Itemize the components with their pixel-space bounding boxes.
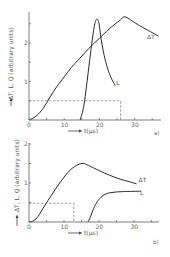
series-l — [80, 19, 115, 120]
series-label: L — [140, 189, 144, 196]
series-l — [88, 191, 141, 222]
x-tick-label: 10 — [61, 121, 69, 128]
x-tick-label: 30 — [131, 121, 139, 128]
x-tick-label: 30 — [131, 223, 139, 230]
y-tick-label: 1 — [24, 179, 28, 186]
axis-ticks: 10203012 — [24, 140, 152, 230]
series-label: L — [116, 79, 120, 86]
x-tick-label: 10 — [61, 223, 69, 230]
series-label: ΔT — [139, 176, 147, 183]
x-axis-label: t(µs) — [84, 229, 98, 237]
y-tick-label: 1 — [24, 78, 28, 85]
y-axis-label: ΔT, L, Q (arbitrary units) — [7, 27, 15, 100]
figure: 10203012 ΔTL 0 ΔT, L, Q (arbitrary units… — [0, 0, 170, 257]
origin-label: 0 — [27, 121, 31, 128]
panel-label: b) — [153, 239, 159, 245]
data-series: ΔTL — [29, 17, 159, 120]
panel-a-chart: 10203012 ΔTL 0 ΔT, L, Q (arbitrary units… — [7, 12, 161, 136]
origin-label: 0 — [27, 223, 31, 230]
panel-b-chart: 10203012 ΔTL 0 ΔT, L, Q (arbitrary units… — [13, 139, 159, 245]
y-tick-label: 2 — [24, 39, 28, 46]
series-delta-t — [29, 163, 136, 222]
x-arrow-icon — [68, 130, 83, 133]
x-arrow-icon — [68, 232, 83, 235]
data-series: ΔTL — [29, 163, 147, 222]
series-q — [29, 101, 121, 120]
y-arrow-icon — [16, 215, 19, 227]
y-axis-label: ΔT, L, Q (arbitrary units) — [13, 139, 21, 212]
y-axis-title: ΔT, L, Q (arbitrary units) — [13, 139, 21, 212]
y-axis-title: ΔT, L, Q (arbitrary units) — [7, 27, 15, 100]
panel-label: a) — [154, 130, 160, 136]
y-tick-label: 2 — [24, 140, 28, 147]
series-label: ΔT — [147, 33, 155, 40]
x-axis-label: t(µs) — [84, 127, 98, 135]
